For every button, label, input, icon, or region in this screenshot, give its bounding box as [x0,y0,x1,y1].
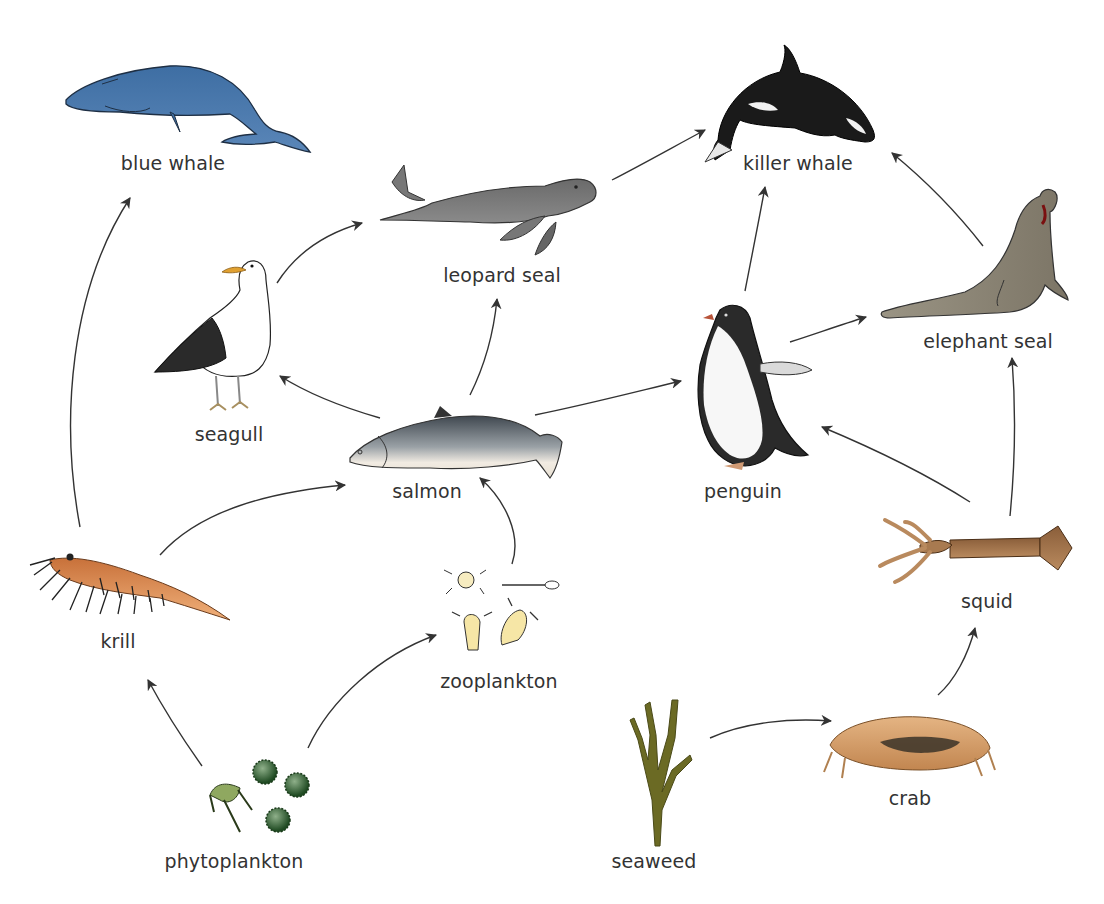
penguin-illustration [698,305,812,470]
food-web-diagram: blue whale killer whale leopard seal ele… [0,0,1104,904]
arrow-seagull-to-leopard-seal [277,223,362,283]
arrow-squid-to-elephant-seal [1010,358,1014,516]
crab-illustration [824,717,995,778]
arrow-crab-to-squid [938,628,975,695]
arrow-elephant-seal-to-killer-whale [892,153,983,246]
arrow-seaweed-to-crab [710,720,831,738]
arrow-penguin-to-elephant-seal [790,317,866,342]
squid-illustration [880,520,1072,582]
arrow-zooplankton-to-salmon [480,478,515,564]
label-leopard-seal: leopard seal [443,264,561,286]
label-elephant-seal: elephant seal [923,330,1053,352]
zooplankton-illustration [444,570,559,650]
killer-whale-illustration [705,45,874,162]
salmon-illustration [350,406,562,478]
arrow-salmon-to-leopard-seal [470,299,497,395]
label-crab: crab [889,787,931,809]
leopard-seal-illustration [380,165,596,255]
phytoplankton-illustration [210,760,309,832]
label-krill: krill [100,630,135,652]
seagull-illustration [155,261,271,410]
label-salmon: salmon [392,480,462,502]
label-squid: squid [961,590,1013,612]
label-seagull: seagull [195,423,264,445]
arrow-krill-to-salmon [160,485,345,555]
krill-illustration [30,554,230,621]
elephant-seal-illustration [881,189,1068,318]
arrow-salmon-to-seagull [280,376,380,418]
arrow-salmon-to-penguin [535,381,681,415]
label-zooplankton: zooplankton [440,670,557,692]
arrow-squid-to-penguin [822,427,970,502]
label-killer-whale: killer whale [743,152,853,174]
label-phytoplankton: phytoplankton [165,850,304,872]
label-blue-whale: blue whale [121,152,225,174]
arrow-phytoplankton-to-zooplankton [308,635,436,748]
arrow-krill-to-blue-whale [71,198,130,527]
arrow-phytoplankton-to-krill [148,680,202,766]
label-penguin: penguin [704,480,782,502]
seaweed-illustration [630,700,692,846]
label-seaweed: seaweed [612,850,697,872]
arrow-penguin-to-killer-whale [745,187,765,291]
blue-whale-illustration [66,66,310,152]
food-web-canvas [0,0,1104,904]
arrow-leopard-seal-to-killer-whale [612,130,705,180]
